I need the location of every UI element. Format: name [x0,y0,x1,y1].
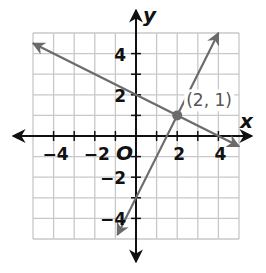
line-2 [117,33,218,235]
y-tick-label: −2 [100,168,126,188]
x-tick-label: 2 [173,144,185,164]
origin-label: O [116,141,133,165]
y-tick-label: 2 [114,86,126,106]
y-tick-label: −4 [100,209,126,229]
x-tick-label: 4 [214,144,226,164]
y-tick-label: 4 [114,45,126,65]
coordinate-graph: −4−22442−2−4Oxy (2, 1) [0,0,266,273]
intersection-point [172,110,182,120]
x-tick-label: −4 [43,144,69,164]
x-axis-label: x [239,109,254,133]
y-axis-label: y [143,3,157,27]
point-label: (2, 1) [186,90,232,110]
x-tick-label: −2 [84,144,110,164]
